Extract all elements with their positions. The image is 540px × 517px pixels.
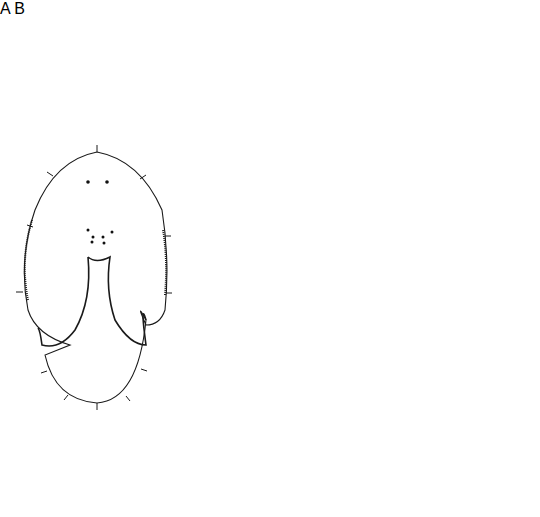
scientific-figure xyxy=(0,0,540,517)
panel-a-drawing xyxy=(16,145,172,410)
body-outline-a xyxy=(24,152,167,403)
